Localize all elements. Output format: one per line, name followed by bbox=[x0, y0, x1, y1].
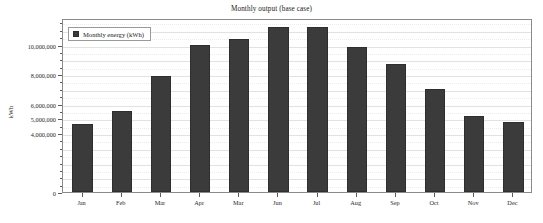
x-axis: JanFebMarAprMarJunJulAugSepOctNovDec bbox=[62, 193, 532, 221]
bar[interactable] bbox=[229, 39, 249, 192]
x-axis-tick-label: Dec bbox=[507, 199, 517, 206]
x-axis-tick-label: Aug bbox=[350, 199, 361, 206]
chart-title: Monthly output (base case) bbox=[0, 5, 543, 13]
x-axis-tick-label: Jun bbox=[273, 199, 282, 206]
bar[interactable] bbox=[347, 47, 367, 192]
bar[interactable] bbox=[72, 124, 92, 192]
legend-label: Monthly energy (kWh) bbox=[83, 31, 144, 38]
x-axis-tick-label: Sep bbox=[390, 199, 399, 206]
bar[interactable] bbox=[112, 111, 132, 192]
x-axis-tick bbox=[199, 193, 200, 197]
y-axis-tick-label: 5,000,000 bbox=[31, 116, 56, 123]
x-axis-tick bbox=[473, 193, 474, 197]
x-axis-tick-label: Jan bbox=[77, 199, 85, 206]
bar[interactable] bbox=[425, 89, 445, 192]
x-axis-tick-label: Feb bbox=[116, 199, 125, 206]
bar[interactable] bbox=[307, 27, 327, 192]
bar[interactable] bbox=[151, 76, 171, 192]
legend-swatch-icon bbox=[73, 31, 79, 37]
y-axis-tick-label: 8,000,000 bbox=[31, 72, 56, 79]
y-axis-tick-label: 0 bbox=[53, 190, 56, 197]
bar[interactable] bbox=[386, 64, 406, 192]
x-axis-tick bbox=[82, 193, 83, 197]
bar-series bbox=[63, 20, 531, 192]
x-axis-tick-label: Nov bbox=[468, 199, 479, 206]
bar[interactable] bbox=[190, 45, 210, 192]
x-axis-tick bbox=[277, 193, 278, 197]
x-axis-tick-label: Mar bbox=[155, 199, 166, 206]
bar[interactable] bbox=[464, 116, 484, 192]
chart-legend: Monthly energy (kWh) bbox=[68, 27, 151, 41]
y-axis-tick-label: 6,000,000 bbox=[31, 101, 56, 108]
x-axis-tick bbox=[356, 193, 357, 197]
bar[interactable] bbox=[503, 122, 523, 192]
x-axis-tick-label: Oct bbox=[430, 199, 439, 206]
x-axis-tick bbox=[238, 193, 239, 197]
x-axis-tick bbox=[512, 193, 513, 197]
x-axis-tick-label: Apr bbox=[194, 199, 204, 206]
y-axis-tick-label: 10,000,000 bbox=[28, 42, 56, 49]
plot-area bbox=[62, 19, 532, 193]
bar[interactable] bbox=[268, 27, 288, 192]
x-axis-tick bbox=[160, 193, 161, 197]
y-axis-tick-label: 4,000,000 bbox=[31, 131, 56, 138]
x-axis-tick bbox=[317, 193, 318, 197]
x-axis-tick bbox=[434, 193, 435, 197]
x-axis-tick bbox=[121, 193, 122, 197]
x-axis-tick-label: Mar bbox=[233, 199, 244, 206]
x-axis-tick bbox=[395, 193, 396, 197]
y-axis: 10,000,0008,000,0006,000,0005,000,0004,0… bbox=[0, 19, 62, 193]
chart-container: Monthly output (base case) kWh 10,000,00… bbox=[0, 0, 543, 223]
x-axis-tick-label: Jul bbox=[313, 199, 320, 206]
